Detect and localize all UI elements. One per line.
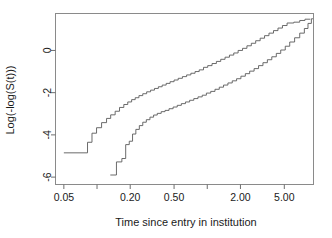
- y-tick-label: -4: [42, 130, 54, 139]
- x-tick-label: 0.50: [164, 191, 185, 203]
- y-tick-label: -6: [42, 172, 54, 181]
- y-axis-title: Log(-log(S(t))): [4, 65, 16, 134]
- x-tick-label: 2.00: [230, 191, 251, 203]
- x-tick-label: 5.00: [274, 191, 295, 203]
- x-axis-title: Time since entry in institution: [115, 216, 256, 228]
- chart-root: 0.050.200.502.005.00 0-2-4-6 Time since …: [0, 0, 332, 238]
- survival-plot-svg: 0.050.200.502.005.00 0-2-4-6 Time since …: [0, 0, 332, 238]
- y-tick-label: -2: [42, 88, 54, 97]
- x-tick-label: 0.05: [54, 191, 75, 203]
- y-tick-label: 0: [42, 47, 54, 53]
- x-tick-label: 0.20: [120, 191, 141, 203]
